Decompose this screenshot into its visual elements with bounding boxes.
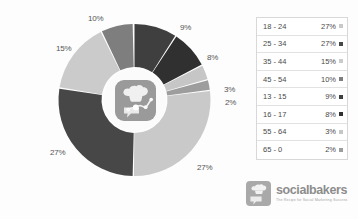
slice-percentage-label: 27% — [197, 163, 212, 172]
legend-percentage: 2% — [325, 145, 336, 154]
chef-hat-glyph — [115, 80, 156, 121]
legend-row: 16 - 178% — [257, 106, 347, 124]
legend-age-range: 65 - 0 — [263, 145, 325, 154]
legend-age-range: 55 - 64 — [263, 127, 325, 136]
legend-color-swatch — [339, 148, 343, 152]
legend-row: 25 - 3427% — [257, 36, 347, 54]
legend-percentage: 8% — [325, 110, 336, 119]
legend-color-swatch — [339, 42, 343, 46]
legend-color-swatch — [339, 59, 343, 63]
brand-name: socialbakers — [276, 184, 348, 197]
legend-color-swatch — [339, 112, 343, 116]
slice-percentage-label: 2% — [225, 98, 236, 107]
legend-percentage: 3% — [325, 127, 336, 136]
slice-percentage-label: 9% — [180, 23, 191, 32]
slice-percentage-label: 10% — [88, 14, 103, 23]
legend-color-swatch — [339, 130, 343, 134]
legend-color-swatch — [339, 95, 343, 99]
legend-row: 18 - 2427% — [257, 18, 347, 36]
socialbakers-mark-icon — [246, 181, 271, 206]
chef-hat-icon — [115, 80, 156, 121]
legend-table: 18 - 2427%25 - 3427%35 - 4415%45 - 5410%… — [256, 17, 348, 160]
brand-text-block: socialbakers The Recipe for Social Marke… — [276, 184, 348, 202]
legend-row: 13 - 159% — [257, 88, 347, 106]
legend-age-range: 45 - 54 — [263, 75, 321, 84]
legend-age-range: 13 - 15 — [263, 92, 325, 101]
legend-row: 65 - 02% — [257, 141, 347, 159]
donut-chart: 10%9%8%3%2%27%27%15% — [0, 0, 250, 200]
slice-percentage-label: 8% — [207, 53, 218, 62]
legend-row: 55 - 643% — [257, 124, 347, 142]
legend-color-swatch — [339, 24, 343, 28]
slice-percentage-label: 15% — [56, 44, 71, 53]
legend-row: 35 - 4415% — [257, 53, 347, 71]
legend-percentage: 15% — [321, 57, 336, 66]
legend-age-range: 18 - 24 — [263, 22, 321, 31]
legend-age-range: 35 - 44 — [263, 57, 321, 66]
legend-percentage: 27% — [321, 39, 336, 48]
speech-chef-glyph — [246, 181, 271, 206]
legend-color-swatch — [339, 77, 343, 81]
brand-tagline: The Recipe for Social Marketing Success — [276, 199, 348, 203]
legend-age-range: 25 - 34 — [263, 39, 321, 48]
legend-percentage: 9% — [325, 92, 336, 101]
slice-percentage-label: 27% — [50, 148, 65, 157]
center-logo — [104, 69, 166, 131]
legend-age-range: 16 - 17 — [263, 110, 325, 119]
socialbakers-logo: socialbakers The Recipe for Social Marke… — [246, 181, 348, 206]
slice-percentage-label: 3% — [224, 85, 235, 94]
legend-percentage: 27% — [321, 22, 336, 31]
legend-row: 45 - 5410% — [257, 71, 347, 89]
legend-percentage: 10% — [321, 75, 336, 84]
